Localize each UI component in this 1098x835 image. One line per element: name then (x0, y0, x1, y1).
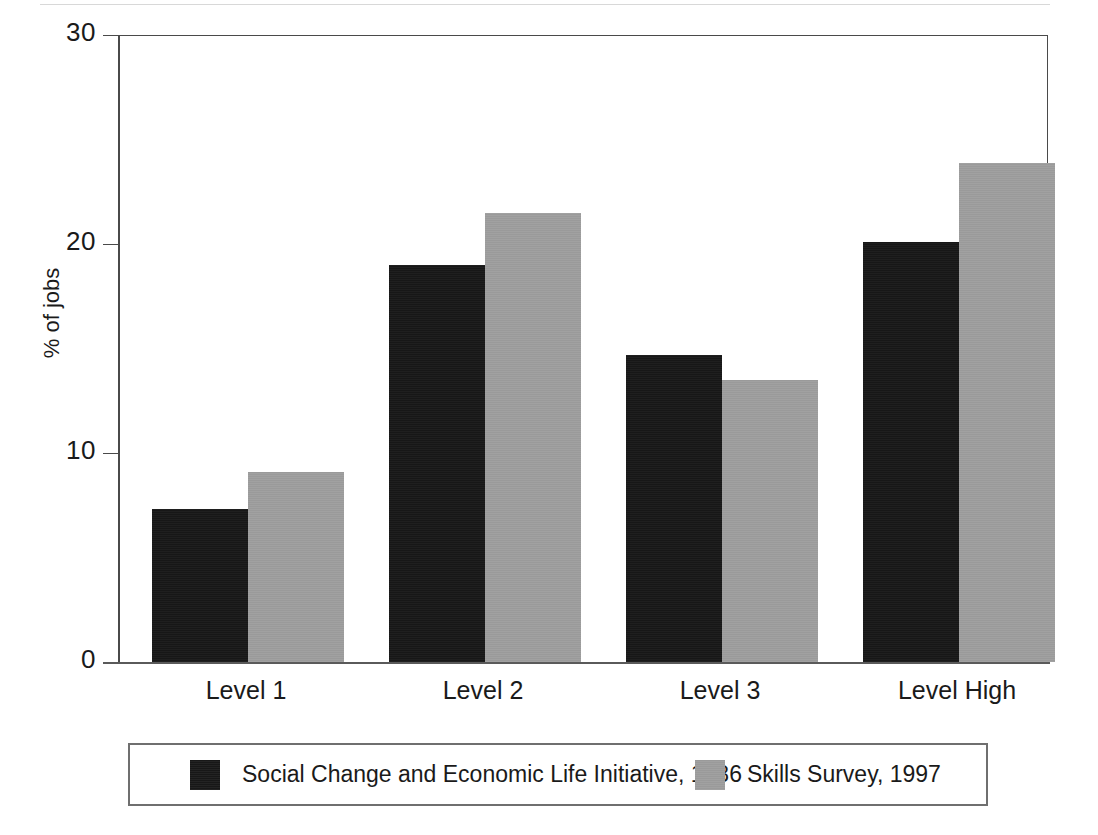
x-axis-line (103, 662, 1050, 664)
bar-level-1-series-1 (248, 472, 344, 662)
y-axis-tick-label: 20 (30, 226, 96, 257)
y-axis-tick (103, 35, 118, 36)
scan-artifact-line (40, 4, 1050, 5)
bar-level-high-series-1 (959, 163, 1055, 663)
legend-swatch-icon-series-1 (695, 760, 725, 790)
bar-level-1-series-0 (152, 509, 248, 662)
y-axis-tick (103, 453, 118, 454)
legend-label-series-1: Skills Survey, 1997 (747, 761, 941, 788)
bar-level-3-series-1 (722, 380, 818, 662)
legend-entry-series-1[interactable]: Skills Survey, 1997 (695, 760, 941, 790)
x-axis-label-level-3: Level 3 (584, 676, 856, 705)
y-axis-tick-label: 0 (30, 644, 96, 675)
bar-level-high-series-0 (863, 242, 959, 662)
legend-swatch-icon-series-0 (190, 760, 220, 790)
y-axis-tick-label: 30 (30, 17, 96, 48)
bar-level-2-series-1 (485, 213, 581, 662)
x-axis-label-level-2: Level 2 (347, 676, 619, 705)
y-axis-tick-label: 10 (30, 435, 96, 466)
bar-level-2-series-0 (389, 265, 485, 662)
bar-chart-figure: % of jobs 0102030 Level 1Level 2Level 3L… (0, 0, 1098, 835)
chart-legend: Social Change and Economic Life Initiati… (128, 743, 988, 806)
y-axis-tick (103, 244, 118, 245)
plot-area (118, 35, 1048, 662)
x-axis-label-level-1: Level 1 (110, 676, 382, 705)
legend-label-series-0: Social Change and Economic Life Initiati… (242, 761, 742, 788)
legend-row: Social Change and Economic Life Initiati… (130, 745, 986, 804)
bar-level-3-series-0 (626, 355, 722, 662)
legend-entry-series-0[interactable]: Social Change and Economic Life Initiati… (190, 760, 742, 790)
x-axis-label-level-high: Level High (821, 676, 1093, 705)
